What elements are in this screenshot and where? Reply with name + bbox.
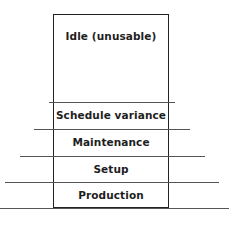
divider-line-setup-production	[5, 182, 219, 183]
layer-label-idle: Idle (unusable)	[53, 30, 169, 42]
layer-label-schedule-variance: Schedule variance	[53, 109, 169, 121]
layer-label-maintenance: Maintenance	[53, 136, 169, 148]
divider-line-maintenance-setup	[20, 156, 205, 157]
layer-label-setup: Setup	[53, 163, 169, 175]
layer-label-production: Production	[53, 189, 169, 201]
divider-line-idle-schedule	[49, 102, 175, 103]
divider-line-schedule-maintenance	[34, 129, 190, 130]
baseline	[0, 208, 229, 209]
